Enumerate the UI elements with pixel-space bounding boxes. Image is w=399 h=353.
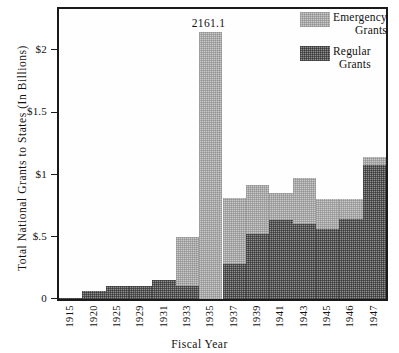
bar-segment-regular: [59, 298, 82, 299]
bar-segment-emergency: [223, 198, 246, 263]
bar-1937: [223, 9, 246, 299]
bar-segment-regular: [339, 219, 362, 299]
bar-segment-emergency: [339, 199, 362, 218]
bar-segment-regular: [82, 291, 105, 299]
bar-1933: [176, 9, 199, 299]
bar-segment-emergency: [199, 32, 222, 299]
bar-segment-emergency: [363, 157, 386, 165]
x-tick-label: 1920: [88, 305, 101, 328]
bar-1915: [59, 9, 82, 299]
x-tick-label: 1915: [64, 305, 77, 328]
bar-segment-regular: [223, 264, 246, 299]
bar-segment-regular: [293, 224, 316, 299]
bar-segment-regular: [176, 286, 199, 299]
bar-segment-regular: [269, 220, 292, 299]
y-tick-label: $1: [3, 169, 47, 180]
legend-label-regular-line2: Grants: [333, 58, 371, 71]
y-tick-label: $2: [3, 44, 47, 55]
bar-segment-emergency: [293, 178, 316, 223]
x-axis-title: Fiscal Year: [0, 338, 399, 350]
y-axis-title: Total National Grants to States (In Bill…: [16, 18, 28, 298]
x-tick-label: 1945: [321, 305, 334, 328]
peak-value-annotation: 2161.1: [192, 17, 225, 29]
x-tick-label: 1946: [344, 305, 357, 328]
bar-segment-emergency: [246, 185, 269, 234]
bar-segment-regular: [246, 234, 269, 299]
chart-figure: Total National Grants to States (In Bill…: [0, 0, 399, 353]
bar-segment-regular: [152, 280, 175, 299]
legend-item-regular-grants: Regular Grants: [300, 45, 392, 70]
bar-segment-regular: [316, 229, 339, 299]
y-tick-label: $1.5: [3, 106, 47, 117]
legend-label-regular: Regular Grants: [333, 45, 371, 70]
x-tick-label: 1941: [274, 305, 287, 328]
legend-label-emergency-line1: Emergency: [333, 11, 387, 24]
legend-swatch-emergency-icon: [300, 12, 330, 27]
y-tick-label: $.5: [3, 231, 47, 242]
legend-item-emergency-grants: Emergency Grants: [300, 11, 392, 36]
bar-1941: [269, 9, 292, 299]
x-tick-label: 1943: [298, 305, 311, 328]
x-tick-label: 1925: [111, 305, 124, 328]
bar-1920: [82, 9, 105, 299]
bar-1925: [106, 9, 129, 299]
legend-label-regular-line1: Regular: [333, 45, 371, 58]
bar-1939: [246, 9, 269, 299]
x-tick-label: 1931: [158, 305, 171, 328]
chart-legend: Emergency Grants Regular Grants: [300, 11, 392, 79]
legend-label-emergency-line2: Grants: [333, 24, 387, 37]
bar-1929: [129, 9, 152, 299]
y-tick-label: 0: [3, 293, 47, 304]
bar-segment-emergency: [176, 237, 199, 286]
bar-segment-emergency: [269, 193, 292, 220]
x-tick-label: 1939: [251, 305, 264, 328]
bar-segment-regular: [129, 286, 152, 299]
bar-1935: [199, 9, 222, 299]
legend-label-emergency: Emergency Grants: [333, 11, 387, 36]
x-tick-label: 1935: [204, 305, 217, 328]
bar-segment-regular: [106, 286, 129, 299]
x-tick-label: 1947: [368, 305, 381, 328]
x-tick-label: 1937: [228, 305, 241, 328]
x-tick-label: 1929: [134, 305, 147, 328]
bar-segment-regular: [363, 165, 386, 299]
bar-1931: [152, 9, 175, 299]
legend-swatch-regular-icon: [300, 46, 330, 61]
bar-segment-emergency: [316, 199, 339, 228]
x-tick-label: 1933: [181, 305, 194, 328]
